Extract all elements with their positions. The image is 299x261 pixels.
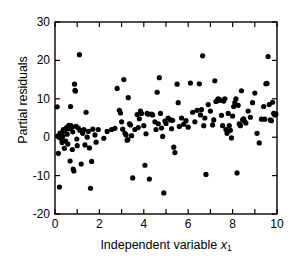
data-point <box>270 100 275 105</box>
data-point <box>192 119 197 124</box>
data-point <box>105 129 110 134</box>
data-point <box>243 120 248 125</box>
data-point <box>175 82 180 87</box>
data-point <box>70 129 75 134</box>
data-point <box>118 110 123 115</box>
data-point <box>252 90 257 95</box>
data-point <box>62 146 67 151</box>
x-tick-label: 8 <box>221 218 245 230</box>
data-point <box>219 113 224 118</box>
data-point <box>139 111 144 116</box>
data-point <box>158 111 163 116</box>
data-point <box>211 117 216 122</box>
data-point <box>254 131 259 136</box>
data-point <box>234 170 239 175</box>
data-point <box>141 123 146 128</box>
data-point <box>161 190 166 195</box>
y-tick-label: 20 <box>37 54 50 66</box>
data-point <box>210 122 215 127</box>
data-point <box>269 118 274 123</box>
y-tick-label: 10 <box>37 93 50 105</box>
data-point <box>208 108 213 113</box>
data-point <box>226 111 231 116</box>
data-point <box>56 151 61 156</box>
scatter-plot-figure: -20-100102030 0246810 Partial residuals … <box>0 0 299 261</box>
data-point <box>121 77 126 82</box>
data-point <box>257 140 262 145</box>
data-point <box>206 102 211 107</box>
data-point <box>90 127 95 132</box>
data-point <box>85 135 90 140</box>
y-axis-title: Partial residuals <box>16 20 30 180</box>
data-point <box>186 125 191 130</box>
data-point <box>264 81 269 86</box>
data-point <box>119 119 124 124</box>
data-point <box>129 133 134 138</box>
data-point <box>69 125 74 130</box>
data-point <box>55 104 60 109</box>
data-point <box>128 122 133 127</box>
x-tick-label: 4 <box>132 218 156 230</box>
y-tick-label: 0 <box>43 131 50 143</box>
data-points <box>55 52 279 195</box>
x-tick-label: 2 <box>87 218 111 230</box>
data-point <box>233 96 238 101</box>
data-point <box>68 158 73 163</box>
x-tick-label: 0 <box>43 218 67 230</box>
data-point <box>153 127 158 132</box>
data-point <box>82 142 87 147</box>
data-point <box>125 137 130 142</box>
data-point <box>75 143 80 148</box>
data-point <box>250 100 255 105</box>
data-point <box>60 134 65 139</box>
data-point <box>130 175 135 180</box>
data-point <box>246 108 251 113</box>
data-point <box>87 145 92 150</box>
data-point <box>155 90 160 95</box>
data-point <box>86 129 91 134</box>
data-point <box>198 112 203 117</box>
data-point <box>160 134 165 139</box>
data-point <box>143 131 148 136</box>
x-axis-title-text: Independent variable <box>100 238 220 252</box>
data-point <box>183 118 188 123</box>
data-point <box>70 147 75 152</box>
data-point <box>273 112 278 117</box>
data-point <box>200 53 205 58</box>
data-point <box>238 123 243 128</box>
data-point <box>150 112 155 117</box>
data-point <box>194 108 199 113</box>
data-point <box>147 176 152 181</box>
data-point <box>92 132 97 137</box>
data-point <box>179 115 184 120</box>
data-point <box>126 95 131 100</box>
data-point <box>172 150 177 155</box>
data-point <box>93 140 98 145</box>
data-point <box>197 81 202 86</box>
data-point <box>88 186 93 191</box>
data-point <box>96 127 101 132</box>
data-point <box>227 123 232 128</box>
data-point <box>74 137 79 142</box>
data-point <box>212 78 217 83</box>
data-point <box>65 142 70 147</box>
data-point <box>169 126 174 131</box>
x-axis-title: Independent variable x1 <box>55 238 277 253</box>
data-point <box>171 145 176 150</box>
data-point <box>89 159 94 164</box>
data-point <box>229 135 234 140</box>
data-point <box>177 124 182 129</box>
data-point <box>156 121 161 126</box>
data-point <box>101 136 106 141</box>
data-point <box>71 168 76 173</box>
data-point <box>77 52 82 57</box>
data-point <box>115 86 120 91</box>
data-point <box>262 117 267 122</box>
data-point <box>123 132 128 137</box>
data-point <box>81 127 86 132</box>
data-point <box>163 121 168 126</box>
x-axis-title-subscript: 1 <box>227 243 232 253</box>
data-point <box>159 125 164 130</box>
data-point <box>83 110 88 115</box>
data-point <box>188 80 193 85</box>
